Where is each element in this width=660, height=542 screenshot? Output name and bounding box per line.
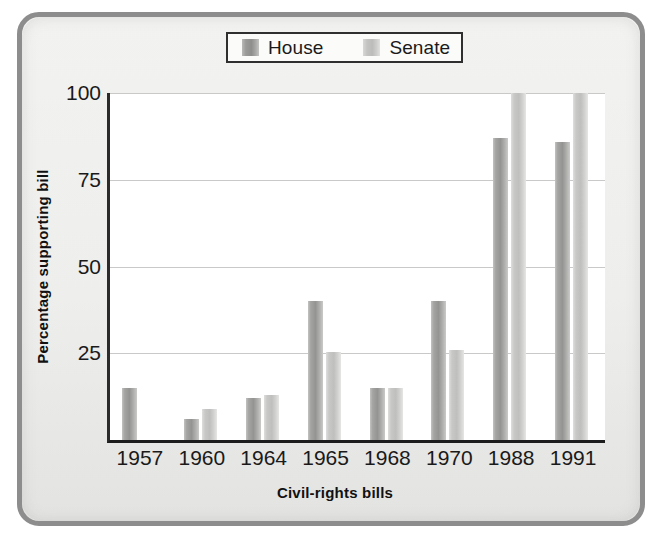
legend-entry-senate: Senate: [363, 38, 450, 57]
y-tick-label-25: 25: [55, 342, 101, 363]
bar-house-1988: [493, 138, 508, 440]
bar-group-1964: [234, 93, 296, 440]
bar-group-1960: [172, 93, 234, 440]
bar-senate-1968: [388, 388, 403, 440]
x-tick-label-1970: 1970: [414, 447, 484, 468]
x-tick-label-1960: 1960: [167, 447, 237, 468]
x-tick-label-1957: 1957: [105, 447, 175, 468]
y-axis-title: Percentage supporting bill: [34, 142, 51, 392]
bar-senate-1960: [202, 409, 217, 440]
bar-group-1988: [481, 93, 543, 440]
bar-senate-1964: [264, 395, 279, 440]
legend-entry-house: House: [242, 38, 323, 57]
chart-legend: House Senate: [226, 32, 463, 63]
bar-group-1965: [296, 93, 358, 440]
x-tick-label-1968: 1968: [352, 447, 422, 468]
bar-house-1970: [431, 301, 446, 440]
x-axis-ticks: 19571960196419651968197019881991: [107, 447, 602, 477]
bar-group-1991: [543, 93, 605, 440]
bar-house-1991: [555, 142, 570, 440]
y-tick-label-50: 50: [55, 256, 101, 277]
bar-senate-1965: [326, 352, 341, 440]
bar-senate-1991: [573, 93, 588, 440]
bar-house-1964: [246, 398, 261, 440]
y-axis-ticks: 255075100: [55, 93, 107, 440]
bar-group-1957: [110, 93, 172, 440]
legend-label-senate: Senate: [389, 38, 450, 57]
bar-group-1968: [358, 93, 420, 440]
bar-house-1965: [308, 301, 323, 440]
bar-house-1960: [184, 419, 199, 440]
x-tick-label-1964: 1964: [229, 447, 299, 468]
bar-senate-1988: [511, 93, 526, 440]
bar-group-1970: [419, 93, 481, 440]
x-tick-label-1991: 1991: [538, 447, 608, 468]
bar-series-container: [110, 93, 605, 440]
plot-area: [107, 93, 605, 443]
house-swatch-icon: [242, 39, 259, 56]
bar-house-1957: [122, 388, 137, 440]
x-axis-title: Civil-rights bills: [100, 484, 570, 501]
senate-swatch-icon: [363, 39, 380, 56]
legend-label-house: House: [268, 38, 323, 57]
x-tick-label-1988: 1988: [476, 447, 546, 468]
x-tick-label-1965: 1965: [291, 447, 361, 468]
bar-house-1968: [370, 388, 385, 440]
chart-screenshot: House Senate Percentage supporting bill …: [0, 0, 660, 542]
y-tick-label-100: 100: [55, 82, 101, 103]
y-tick-label-75: 75: [55, 169, 101, 190]
bar-senate-1970: [449, 350, 464, 440]
